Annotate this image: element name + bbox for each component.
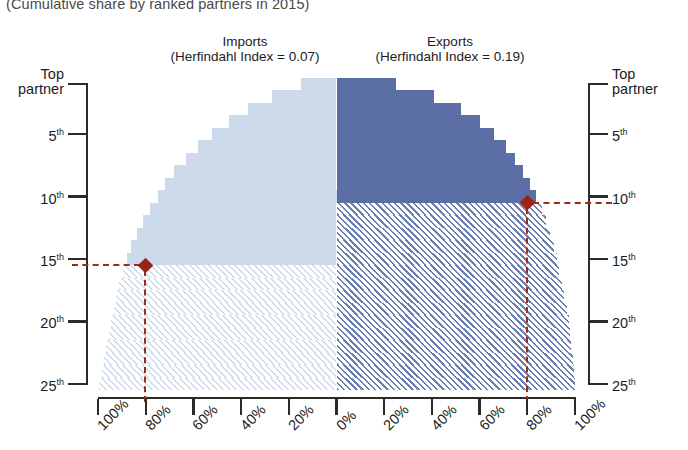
x-axis-tick-9 bbox=[526, 399, 528, 415]
y-axis-left-spine bbox=[86, 84, 88, 385]
imports-bar-rank-23 bbox=[104, 353, 337, 365]
y-axis-left-tick-10 bbox=[68, 195, 88, 197]
imports-bar-fill bbox=[114, 303, 337, 315]
y-axis-right-tick-10 bbox=[588, 195, 608, 197]
x-axis-tick-7 bbox=[431, 399, 433, 415]
imports-bar-fill bbox=[104, 353, 337, 365]
exports-bar-rank-17 bbox=[337, 278, 562, 290]
imports-bar-fill bbox=[198, 140, 336, 152]
imports-bar-rank-5 bbox=[212, 128, 336, 140]
imports-bar-fill bbox=[127, 253, 337, 265]
exports-bar-rank-8 bbox=[337, 165, 523, 177]
y-axis-right-tick-15 bbox=[588, 258, 608, 260]
imports-bar-rank-19 bbox=[114, 303, 337, 315]
imports-bar-rank-11 bbox=[150, 203, 336, 215]
x-axis-tick-0 bbox=[97, 399, 99, 415]
x-axis-tick-1 bbox=[145, 399, 147, 415]
y-axis-right-tick-5 bbox=[588, 133, 608, 135]
x-axis-tick-8 bbox=[478, 399, 480, 415]
imports-bar-rank-16 bbox=[123, 265, 336, 277]
y-axis-left-label-top-partner: Toppartner bbox=[0, 67, 64, 96]
exports-bar-fill bbox=[337, 140, 506, 152]
exports-bar-fill bbox=[337, 365, 574, 377]
x-axis-label-10: 100% bbox=[571, 396, 609, 434]
imports-bar-fill bbox=[137, 228, 336, 240]
imports-bar-rank-24 bbox=[102, 365, 337, 377]
imports-bar-rank-1 bbox=[301, 78, 337, 90]
exports-bar-rank-20 bbox=[337, 315, 570, 327]
imports-bar-fill bbox=[158, 190, 337, 202]
imports-bar-rank-22 bbox=[106, 340, 336, 352]
exports-bar-fill bbox=[337, 240, 554, 252]
y-axis-left-tick-20 bbox=[68, 320, 88, 322]
exports-bar-fill bbox=[337, 278, 562, 290]
imports-bar-fill bbox=[174, 165, 336, 177]
exports-bar-rank-10 bbox=[337, 190, 536, 202]
exports-bar-fill bbox=[337, 128, 494, 140]
y-axis-right-tick-1 bbox=[588, 83, 608, 85]
exports-bar-fill bbox=[337, 303, 567, 315]
exports-bar-fill bbox=[337, 190, 536, 202]
imports-bar-fill bbox=[143, 215, 336, 227]
x-axis-label-0: 100% bbox=[94, 396, 132, 434]
imports-bar-rank-18 bbox=[116, 290, 337, 302]
exports-bar-fill bbox=[337, 90, 435, 102]
imports-bar-fill bbox=[131, 240, 336, 252]
imports-bar-fill bbox=[119, 278, 336, 290]
exports-bar-rank-1 bbox=[337, 78, 397, 90]
imports-bar-fill bbox=[109, 328, 337, 340]
exports-bar-rank-18 bbox=[337, 290, 565, 302]
imports-title: Imports bbox=[222, 34, 267, 49]
imports-bar-rank-3 bbox=[248, 103, 336, 115]
imports-marker-guide-horizontal bbox=[72, 264, 140, 266]
y-axis-left-tick-5 bbox=[68, 133, 88, 135]
exports-bar-fill bbox=[337, 115, 480, 127]
imports-bar-fill bbox=[165, 178, 337, 190]
imports-bar-rank-15 bbox=[127, 253, 337, 265]
exports-bar-rank-24 bbox=[337, 365, 574, 377]
imports-bar-rank-7 bbox=[186, 153, 336, 165]
y-axis-left-tick-15 bbox=[68, 258, 88, 260]
imports-bar-rank-17 bbox=[119, 278, 336, 290]
exports-bar-fill bbox=[337, 103, 461, 115]
chart-subtitle: (Cumulative share by ranked partners in … bbox=[6, 0, 426, 12]
imports-marker-guide-vertical bbox=[144, 270, 146, 402]
y-axis-left-tick-1 bbox=[68, 83, 88, 85]
imports-bar-rank-6 bbox=[198, 140, 336, 152]
exports-bar-fill bbox=[337, 328, 571, 340]
imports-bar-fill bbox=[123, 265, 336, 277]
y-axis-right-label-5: 5th bbox=[612, 125, 682, 144]
imports-bar-fill bbox=[272, 90, 336, 102]
imports-bar-fill bbox=[212, 128, 336, 140]
exports-bar-rank-4 bbox=[337, 115, 480, 127]
exports-bar-rank-7 bbox=[337, 153, 516, 165]
y-axis-right-spine bbox=[588, 84, 590, 385]
y-axis-left-label-5: 5th bbox=[0, 125, 64, 144]
exports-marker-guide-vertical bbox=[526, 208, 528, 402]
exports-bar-fill bbox=[337, 178, 530, 190]
imports-bar-fill bbox=[186, 153, 336, 165]
imports-bar-rank-14 bbox=[131, 240, 336, 252]
y-axis-right-label-20: 20th bbox=[612, 312, 682, 331]
y-axis-right-label-top-partner: Toppartner bbox=[612, 67, 682, 96]
exports-panel-heading: Exports (Herfindahl Index = 0.19) bbox=[325, 34, 575, 64]
imports-bar-fill bbox=[301, 78, 337, 90]
imports-bar-fill bbox=[248, 103, 336, 115]
x-axis-tick-6 bbox=[383, 399, 385, 415]
exports-bar-fill bbox=[337, 215, 547, 227]
imports-bar-fill bbox=[229, 115, 336, 127]
chart-plot-area bbox=[98, 78, 575, 390]
exports-bar-rank-15 bbox=[337, 253, 558, 265]
imports-bar-rank-4 bbox=[229, 115, 336, 127]
y-axis-left-tick-25 bbox=[68, 383, 88, 385]
y-axis-right-label-15: 15th bbox=[612, 250, 682, 269]
exports-marker-guide-horizontal bbox=[533, 202, 612, 204]
exports-bar-rank-14 bbox=[337, 240, 554, 252]
imports-bar-rank-10 bbox=[158, 190, 337, 202]
exports-bar-rank-13 bbox=[337, 228, 550, 240]
exports-bar-rank-3 bbox=[337, 103, 461, 115]
imports-bar-fill bbox=[106, 340, 336, 352]
exports-bar-fill bbox=[337, 353, 573, 365]
x-axis-tick-2 bbox=[192, 399, 194, 415]
y-axis-left-label-25: 25th bbox=[0, 375, 64, 394]
